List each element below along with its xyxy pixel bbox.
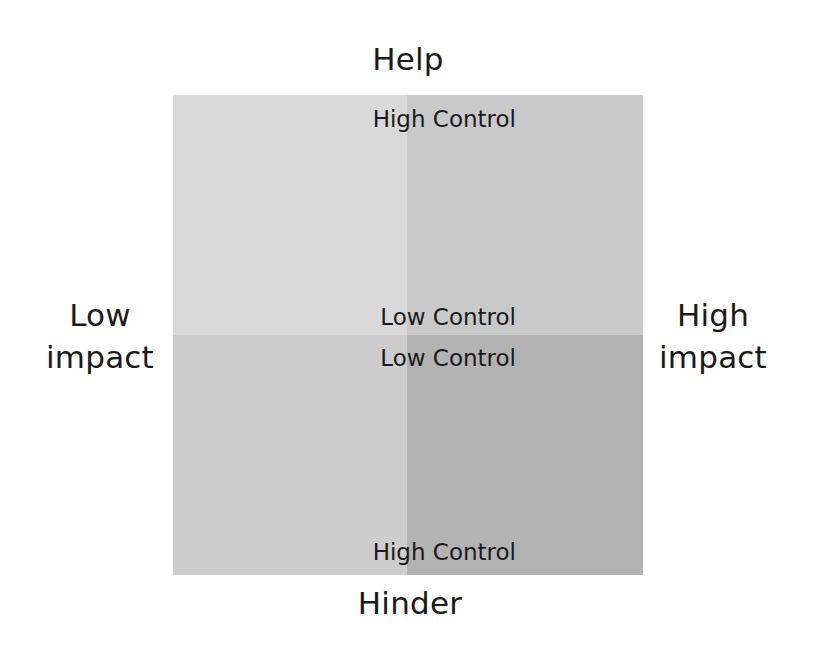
control-label-center-lower-low: Low Control	[316, 343, 516, 373]
axis-label-help: Help	[358, 38, 458, 80]
control-label-center-upper-low: Low Control	[316, 302, 516, 332]
axis-label-low-line1: Low	[30, 294, 170, 336]
axis-label-high-line1: High	[648, 294, 778, 336]
control-label-bottom-high: High Control	[316, 537, 516, 567]
control-label-top-high: High Control	[316, 104, 516, 134]
axis-label-high-line2: impact	[648, 336, 778, 378]
axis-label-low-impact: Low impact	[30, 294, 170, 378]
axis-label-low-line2: impact	[30, 336, 170, 378]
axis-label-high-impact: High impact	[648, 294, 778, 378]
axis-label-hinder: Hinder	[345, 582, 475, 624]
